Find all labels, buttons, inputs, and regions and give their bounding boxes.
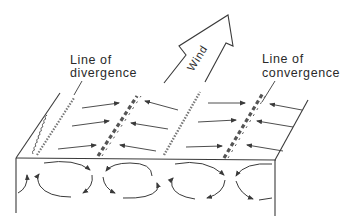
- divergence-label: Line of divergence: [70, 53, 137, 95]
- wind-label: Wind: [185, 43, 210, 73]
- roll-vortex-diagram: Wind Line of divergence Line of converge…: [0, 0, 349, 223]
- convergence-label: Line of convergence: [262, 52, 340, 102]
- circulation-cells: [18, 162, 272, 200]
- wind-arrow-icon: Wind: [164, 15, 233, 83]
- divergence-label-line2: divergence: [70, 66, 137, 80]
- convergence-label-line2: convergence: [262, 66, 340, 80]
- convergence-label-line1: Line of: [262, 52, 304, 66]
- slab-outline: [16, 93, 308, 216]
- divergence-label-line1: Line of: [70, 53, 112, 67]
- divergence-line-1: [24, 98, 74, 155]
- divergence-line-2: [164, 92, 200, 155]
